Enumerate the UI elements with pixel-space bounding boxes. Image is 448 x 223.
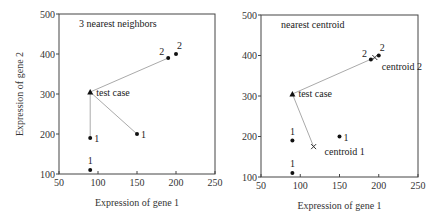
y-axis-label: Expression of gene 2	[14, 52, 25, 136]
y-tick-label: 100	[40, 169, 55, 180]
class-1-point-dot-icon	[88, 168, 92, 172]
centroid-label: centroid 1	[325, 146, 365, 157]
point-class-label: 2	[380, 42, 385, 53]
x-axis-label: Expression of gene 1	[297, 200, 381, 211]
x-axis-label: Expression of gene 1	[95, 197, 179, 208]
y-tick-label: 400	[242, 50, 257, 61]
x-tick-label: 150	[332, 180, 347, 191]
figure: 50100150200250100200300400500Expression …	[0, 0, 448, 223]
plot-3-nearest-neighbors: 50100150200250100200300400500Expression …	[14, 9, 223, 209]
point-class-label: 2	[177, 40, 182, 51]
point-class-label: 1	[344, 132, 349, 143]
centroid-label: centroid 2	[382, 61, 422, 72]
class-1-point-dot-icon	[290, 139, 294, 143]
centroid-x-marker-icon	[311, 144, 316, 149]
test-case-label: test case	[96, 87, 130, 98]
x-tick-label: 250	[411, 180, 426, 191]
y-tick-label: 400	[40, 49, 55, 60]
plot-nearest-centroid: 50100150200250100200300400500Expression …	[242, 10, 426, 212]
y-tick-label: 100	[242, 172, 257, 183]
x-tick-label: 50	[256, 180, 266, 191]
point-class-label: 1	[290, 126, 295, 137]
x-tick-label: 100	[91, 177, 106, 188]
class-1-point-dot-icon	[135, 132, 139, 136]
x-tick-label: 200	[371, 180, 386, 191]
x-tick-label: 250	[208, 177, 223, 188]
test-case-triangle-icon	[87, 89, 93, 95]
x-tick-label: 150	[130, 177, 145, 188]
point-class-label: 1	[94, 133, 99, 144]
centroid-x-marker-icon	[372, 55, 377, 60]
plot-title: nearest centroid	[281, 19, 345, 30]
class-2-point-dot-icon	[166, 56, 170, 60]
point-class-label: 1	[88, 155, 93, 166]
class-2-point-dot-icon	[174, 52, 178, 56]
class-1-point-dot-icon	[338, 135, 342, 139]
y-tick-label: 200	[242, 131, 257, 142]
test-case-triangle-icon	[289, 91, 295, 97]
test-case-label: test case	[298, 88, 332, 99]
point-class-label: 1	[290, 158, 295, 169]
y-tick-label: 500	[40, 9, 55, 20]
class-1-point-dot-icon	[88, 136, 92, 140]
point-class-label: 2	[159, 46, 164, 57]
point-class-label: 2	[362, 48, 367, 59]
point-class-label: 1	[141, 129, 146, 140]
connector-line	[90, 92, 137, 134]
y-tick-label: 200	[40, 129, 55, 140]
x-tick-label: 50	[54, 177, 64, 188]
plot-title: 3 nearest neighbors	[79, 18, 157, 29]
y-tick-label: 500	[242, 10, 257, 21]
y-tick-label: 300	[40, 89, 55, 100]
x-tick-label: 200	[169, 177, 184, 188]
class-1-point-dot-icon	[290, 171, 294, 175]
plot-frame	[59, 14, 215, 174]
x-tick-label: 100	[293, 180, 308, 191]
y-tick-label: 300	[242, 91, 257, 102]
connector-line	[292, 94, 313, 147]
